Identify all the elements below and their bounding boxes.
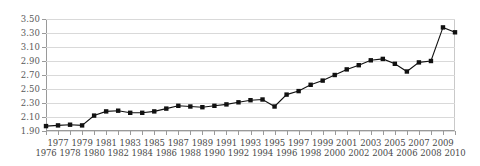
x-tick-mark — [431, 131, 432, 135]
data-point-marker — [236, 100, 240, 104]
data-point-marker — [152, 109, 156, 113]
y-tick-label: 2.70 — [0, 71, 40, 79]
data-point-marker — [320, 78, 324, 82]
data-point-marker — [104, 109, 108, 113]
data-point-marker — [176, 104, 180, 108]
x-tick-mark — [94, 131, 95, 135]
data-point-marker — [405, 69, 409, 73]
x-tick-mark — [371, 131, 372, 135]
x-tick-mark — [106, 131, 107, 135]
data-point-marker — [248, 98, 252, 102]
x-tick-mark — [190, 131, 191, 135]
x-tick-mark — [226, 131, 227, 135]
x-tick-mark — [70, 131, 71, 135]
x-tick-label: 2010 — [440, 149, 470, 158]
data-point-marker — [381, 57, 385, 61]
data-point-marker — [417, 60, 421, 64]
x-tick-mark — [82, 131, 83, 135]
data-point-marker — [429, 59, 433, 63]
data-point-marker — [369, 58, 373, 62]
data-point-marker — [140, 111, 144, 115]
x-tick-mark — [214, 131, 215, 135]
data-point-marker — [92, 113, 96, 117]
data-point-marker — [441, 25, 445, 29]
data-point-marker — [333, 73, 337, 77]
x-tick-mark — [118, 131, 119, 135]
x-tick-label: 2009 — [428, 139, 458, 148]
x-tick-mark — [347, 131, 348, 135]
data-point-marker — [200, 105, 204, 109]
data-point-marker — [393, 62, 397, 66]
data-point-marker — [56, 123, 60, 127]
y-tick-label: 2.90 — [0, 57, 40, 65]
data-point-marker — [224, 102, 228, 106]
x-tick-mark — [287, 131, 288, 135]
data-point-marker — [164, 106, 168, 110]
x-tick-mark — [238, 131, 239, 135]
x-tick-mark — [142, 131, 143, 135]
data-point-marker — [260, 97, 264, 101]
x-tick-mark — [455, 131, 456, 135]
x-tick-mark — [58, 131, 59, 135]
y-tick-label: 3.30 — [0, 29, 40, 37]
x-tick-mark — [154, 131, 155, 135]
line-chart: 3.503.303.102.902.702.502.302.101.90 197… — [0, 0, 480, 166]
data-point-marker — [68, 123, 72, 127]
y-tick-label: 2.10 — [0, 113, 40, 121]
x-tick-mark — [359, 131, 360, 135]
x-tick-mark — [323, 131, 324, 135]
data-point-marker — [128, 111, 132, 115]
x-tick-mark — [46, 131, 47, 135]
data-point-marker — [212, 104, 216, 108]
y-tick-label: 3.10 — [0, 43, 40, 51]
x-tick-mark — [178, 131, 179, 135]
x-tick-mark — [275, 131, 276, 135]
x-tick-mark — [407, 131, 408, 135]
data-point-marker — [357, 63, 361, 67]
x-tick-mark — [443, 131, 444, 135]
x-tick-mark — [335, 131, 336, 135]
data-point-marker — [188, 104, 192, 108]
data-series — [46, 19, 455, 131]
x-tick-mark — [419, 131, 420, 135]
x-tick-mark — [263, 131, 264, 135]
x-tick-mark — [166, 131, 167, 135]
x-tick-mark — [311, 131, 312, 135]
y-tick-label: 3.50 — [0, 15, 40, 23]
data-point-marker — [296, 89, 300, 93]
data-point-marker — [116, 109, 120, 113]
y-tick-label: 2.30 — [0, 99, 40, 107]
data-point-marker — [345, 67, 349, 71]
data-point-marker — [44, 124, 48, 128]
y-tick-label: 2.50 — [0, 85, 40, 93]
x-tick-mark — [383, 131, 384, 135]
x-tick-mark — [202, 131, 203, 135]
x-tick-mark — [130, 131, 131, 135]
x-tick-mark — [299, 131, 300, 135]
x-tick-mark — [395, 131, 396, 135]
data-point-marker — [80, 123, 84, 127]
x-tick-mark — [251, 131, 252, 135]
data-point-marker — [284, 92, 288, 96]
data-point-marker — [453, 30, 457, 34]
y-tick-label: 1.90 — [0, 127, 40, 135]
data-point-marker — [272, 104, 276, 108]
data-point-marker — [308, 83, 312, 87]
